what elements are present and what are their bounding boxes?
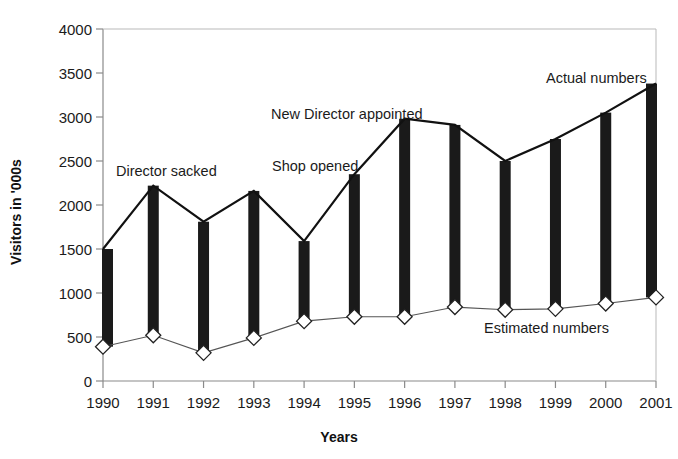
series-bars xyxy=(102,84,657,353)
y-tick-label: 3000 xyxy=(30,109,92,126)
y-axis-title: Visitors in '000s xyxy=(8,159,24,265)
y-tick-label: 1000 xyxy=(30,285,92,302)
bar-1991 xyxy=(148,186,159,336)
x-tick-label: 1992 xyxy=(187,394,220,411)
bar-1997 xyxy=(449,125,460,307)
x-tick-label: 1994 xyxy=(287,394,320,411)
bar-1996 xyxy=(399,119,410,317)
bar-1990 xyxy=(102,249,113,347)
bar-2000 xyxy=(600,113,611,304)
x-tick-label: 1996 xyxy=(388,394,421,411)
bar-1998 xyxy=(500,161,511,310)
x-tick-label: 1997 xyxy=(438,394,471,411)
y-tick-label: 3500 xyxy=(30,65,92,82)
y-tick-label: 2500 xyxy=(30,153,92,170)
x-tick-label: 2001 xyxy=(639,394,672,411)
bar-1992 xyxy=(198,222,209,353)
y-tick-label: 1500 xyxy=(30,241,92,258)
y-tick-label: 500 xyxy=(30,329,92,346)
y-tick-label: 2000 xyxy=(30,197,92,214)
x-axis-title: Years xyxy=(320,429,357,445)
bar-1999 xyxy=(550,139,561,309)
bar-1994 xyxy=(299,241,310,321)
x-tick-label: 1993 xyxy=(237,394,270,411)
y-tick-label: 4000 xyxy=(30,21,92,38)
x-axis-ticks xyxy=(103,381,656,388)
y-tick-label: 0 xyxy=(30,373,92,390)
chart-figure: 05001000150020002500300035004000 1990199… xyxy=(0,0,678,459)
annotation-label: Actual numbers xyxy=(546,70,647,86)
x-tick-label: 1995 xyxy=(338,394,371,411)
bar-1993 xyxy=(248,191,259,338)
x-tick-label: 2000 xyxy=(589,394,622,411)
chart-plot-area xyxy=(0,0,678,459)
x-tick-label: 1999 xyxy=(539,394,572,411)
annotation-label: Director sacked xyxy=(116,163,217,179)
bar-1995 xyxy=(349,174,360,317)
annotation-label: New Director appointed xyxy=(271,106,423,122)
annotation-label: Shop opened xyxy=(272,158,358,174)
y-axis-ticks xyxy=(96,29,103,381)
x-tick-label: 1990 xyxy=(86,394,119,411)
x-tick-label: 1998 xyxy=(488,394,521,411)
bar-2001 xyxy=(646,84,657,298)
x-tick-label: 1991 xyxy=(137,394,170,411)
annotation-label: Estimated numbers xyxy=(484,320,609,336)
